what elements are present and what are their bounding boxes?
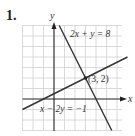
intersection-point [84,76,88,80]
x-axis-label: x [127,93,133,104]
y-axis-label: y [49,10,55,21]
graph: x y 2x + y = 8 x − 2y = −1 (3, 2) [0,0,135,136]
x-axis-arrow-icon [120,97,127,102]
line2-label: x − 2y = −1 [39,104,87,114]
point-label: (3, 2) [88,74,109,85]
line1-label: 2x + y = 8 [70,29,111,39]
